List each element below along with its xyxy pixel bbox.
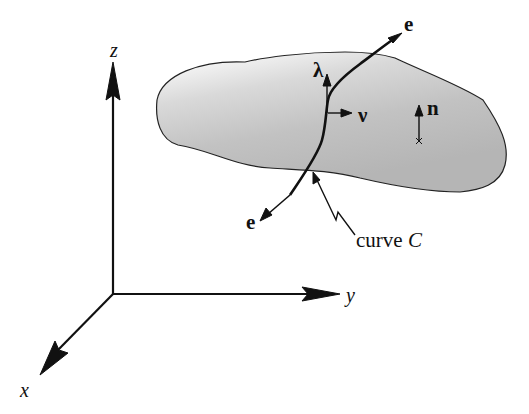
surface-region [157, 52, 507, 192]
x-axis [58, 294, 113, 350]
tangent-e-bottom-arrowhead [260, 208, 272, 221]
lambda-label: λ [313, 60, 323, 81]
curve-c-label: curve C [356, 230, 422, 251]
y-axis-label: y [346, 285, 355, 305]
x-axis-label: x [20, 380, 29, 400]
normal-n-label: n [427, 98, 439, 119]
tangent-e-bottom-label: e [246, 212, 255, 233]
y-arrowhead [302, 287, 340, 301]
diagram-canvas [0, 0, 529, 414]
x-arrowhead [40, 341, 68, 375]
tangent-e-top-label: e [404, 14, 413, 35]
curve-c-leader [316, 178, 355, 235]
z-axis-label: z [110, 40, 118, 60]
nu-label: ν [358, 105, 367, 126]
curve-c-label-name: C [408, 228, 422, 252]
curve-c-label-prefix: curve [356, 228, 408, 252]
z-arrowhead [106, 62, 120, 100]
